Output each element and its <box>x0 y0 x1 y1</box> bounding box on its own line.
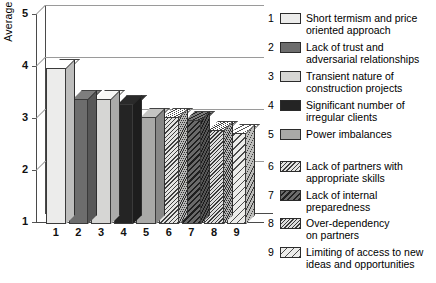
gridline-depth-connector <box>36 109 46 119</box>
legend-item-5: 5Power imbalances <box>268 128 392 140</box>
legend-swatch-icon <box>280 13 301 24</box>
y-axis-title: Average value <box>2 0 14 62</box>
legend-swatch-icon <box>280 100 301 111</box>
chart-plot-area: Average value 12345 123456789 <box>0 0 268 283</box>
legend-item-number: 7 <box>268 189 279 201</box>
y-axis-tick-2: 2 <box>14 163 28 175</box>
legend-swatch-icon <box>280 71 301 82</box>
y-axis-tick-5: 5 <box>14 7 28 19</box>
x-axis-tick-4: 4 <box>114 226 134 238</box>
legend-swatch-icon <box>280 161 301 172</box>
gridline-4 <box>45 57 264 58</box>
legend-item-label: Transient nature of construction project… <box>306 70 402 94</box>
legend-item-7: 7Lack of internal preparedness <box>268 189 377 213</box>
legend-item-label: Lack of internal preparedness <box>306 189 377 213</box>
y-axis-tick-3: 3 <box>14 111 28 123</box>
bar-top-face <box>186 111 215 120</box>
legend-swatch-icon <box>280 218 301 229</box>
bar-side-face <box>156 108 165 224</box>
legend-item-number: 3 <box>268 70 279 82</box>
x-axis-tick-7: 7 <box>182 226 202 238</box>
y-axis-tick-1: 1 <box>14 215 28 227</box>
gridline-depth-connector <box>36 5 46 15</box>
x-axis-tick-8: 8 <box>204 226 224 238</box>
legend-swatch-icon <box>280 190 301 201</box>
legend-item-6: 6Lack of partners with appropriate skill… <box>268 160 403 184</box>
x-axis-tick-3: 3 <box>91 226 111 238</box>
gridline-depth-connector <box>36 161 46 171</box>
legend-item-number: 8 <box>268 217 279 229</box>
x-axis-tick-2: 2 <box>69 226 89 238</box>
legend-item-label: Significant number of irregular clients <box>306 99 405 123</box>
legend-item-label: Lack of trust and adversarial relationsh… <box>306 41 419 65</box>
legend: 1Short termism and price oriented approa… <box>268 4 436 280</box>
legend-item-2: 2Lack of trust and adversarial relations… <box>268 41 419 65</box>
bar-side-face <box>133 95 142 224</box>
x-axis-tick-9: 9 <box>227 226 247 238</box>
legend-item-3: 3Transient nature of construction projec… <box>268 70 402 94</box>
legend-item-number: 9 <box>268 246 279 258</box>
y-axis-tick-4: 4 <box>14 59 28 71</box>
x-axis-tick-6: 6 <box>159 226 179 238</box>
legend-item-label: Lack of partners with appropriate skills <box>306 160 403 184</box>
legend-item-label: Limiting of access to new ideas and oppo… <box>306 246 423 270</box>
bar-side-face <box>201 111 210 224</box>
bar-front-face <box>46 68 66 224</box>
legend-item-number: 2 <box>268 41 279 53</box>
bar-chart-figure: Average value 12345 123456789 1Short ter… <box>0 0 436 283</box>
bar-side-face <box>88 90 97 224</box>
legend-item-9: 9Limiting of access to new ideas and opp… <box>268 246 423 270</box>
bar-1 <box>46 68 66 224</box>
legend-item-number: 1 <box>268 12 279 24</box>
bar-side-face <box>224 121 233 224</box>
bar-side-face <box>246 124 255 224</box>
legend-item-1: 1Short termism and price oriented approa… <box>268 12 417 36</box>
bar-side-face <box>66 59 75 224</box>
legend-item-label: Over-dependency on partners <box>306 217 389 241</box>
legend-item-label: Short termism and price oriented approac… <box>306 12 417 36</box>
plot-box <box>36 14 264 224</box>
legend-swatch-icon <box>280 129 301 140</box>
x-axis-tick-5: 5 <box>136 226 156 238</box>
bar-side-face <box>179 108 188 224</box>
legend-item-number: 6 <box>268 160 279 172</box>
legend-item-number: 5 <box>268 128 279 140</box>
gridline-depth-connector <box>36 57 46 67</box>
legend-swatch-icon <box>280 247 301 258</box>
legend-swatch-icon <box>280 42 301 53</box>
legend-item-4: 4Significant number of irregular clients <box>268 99 405 123</box>
legend-item-number: 4 <box>268 99 279 111</box>
bar-side-face <box>111 90 120 224</box>
x-axis-tick-1: 1 <box>46 226 66 238</box>
legend-item-8: 8Over-dependency on partners <box>268 217 389 241</box>
gridline-5 <box>45 5 264 6</box>
legend-item-label: Power imbalances <box>306 128 392 140</box>
